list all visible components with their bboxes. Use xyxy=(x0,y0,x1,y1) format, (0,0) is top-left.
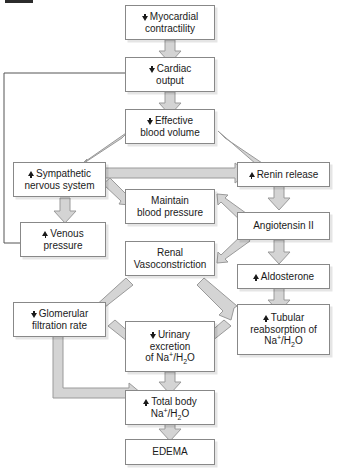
node-myocardial-contractility[interactable]: Myocardial contractility xyxy=(125,5,215,40)
label-line-3: of Na+/H2O xyxy=(145,352,195,363)
decrease-icon xyxy=(31,313,37,318)
label-h: /H xyxy=(173,352,183,363)
node-tubular-reabsorption[interactable]: Tubular reabsorption of Na+/H2O xyxy=(237,304,330,355)
increase-icon xyxy=(143,399,149,404)
label-line-1: Angiotensin II xyxy=(253,220,314,231)
node-glomerular-filtration-rate[interactable]: Glomerular filtration rate xyxy=(13,302,106,337)
decrease-icon xyxy=(149,68,155,73)
label-o: O xyxy=(187,352,195,363)
label-line-2: Na+/H2O xyxy=(151,408,190,419)
label-line-1: Cardiac xyxy=(157,63,191,74)
increase-icon xyxy=(263,315,269,320)
flowchart-canvas: Myocardial contractility Cardiac output … xyxy=(0,0,338,469)
label-line-1: Aldosterone xyxy=(261,271,314,282)
label-line-1: Tubular xyxy=(271,312,305,323)
increase-icon xyxy=(253,274,259,279)
node-cardiac-output-text: Cardiac output xyxy=(147,63,193,86)
node-sympathetic-nervous-system[interactable]: Sympathetic nervous system xyxy=(13,162,106,197)
node-total-body[interactable]: Total body Na+/H2O xyxy=(125,390,215,425)
node-aldosterone-text: Aldosterone xyxy=(251,271,316,283)
node-renal-vasoconstriction-text: Renal Vasoconstriction xyxy=(132,247,209,270)
label-o: O xyxy=(182,408,190,419)
label-line-1: Renal xyxy=(157,247,183,258)
node-glomerular-filtration-rate-text: Glomerular filtration rate xyxy=(29,308,90,331)
label-line-1: Sympathetic xyxy=(36,168,91,179)
arrow-renin-to-angiotensin xyxy=(268,186,290,210)
label-line-1: Renin release xyxy=(257,169,319,180)
arrow-sympathetic-to-renin xyxy=(104,163,248,183)
label-line-2: Vasoconstriction xyxy=(134,259,207,270)
label-line-1: EDEMA xyxy=(152,446,188,457)
arrow-angiotensin-to-aldosterone xyxy=(268,240,290,264)
label-h: /H xyxy=(281,335,291,346)
label-na: Na xyxy=(151,408,164,419)
label-line-2: nervous system xyxy=(24,180,94,191)
node-effective-blood-volume[interactable]: Effective blood volume xyxy=(125,109,215,144)
label-o: O xyxy=(295,335,303,346)
node-maintain-blood-pressure[interactable]: Maintain blood pressure xyxy=(125,189,215,224)
node-angiotensin-ii[interactable]: Angiotensin II xyxy=(237,212,330,240)
arrow-sympathetic-to-venous-pressure xyxy=(54,198,76,223)
node-venous-pressure[interactable]: Venous pressure xyxy=(20,222,106,257)
label-line-1: Effective xyxy=(155,115,193,126)
increase-icon xyxy=(28,171,34,176)
node-maintain-blood-pressure-text: Maintain blood pressure xyxy=(135,195,205,218)
label-na: of Na xyxy=(145,352,169,363)
crop-artifact-bar xyxy=(5,0,33,3)
label-line-1: Urinary xyxy=(158,329,190,340)
node-effective-blood-volume-text: Effective blood volume xyxy=(138,115,201,138)
label-line-1: Myocardial xyxy=(150,11,198,22)
node-edema[interactable]: EDEMA xyxy=(125,439,215,465)
decrease-icon xyxy=(142,16,148,21)
node-venous-pressure-text: Venous pressure xyxy=(40,228,85,251)
decrease-icon xyxy=(147,120,153,125)
node-sympathetic-nervous-system-text: Sympathetic nervous system xyxy=(22,168,96,191)
decrease-icon xyxy=(150,334,156,339)
label-line-2: blood volume xyxy=(140,127,199,138)
node-myocardial-contractility-text: Myocardial contractility xyxy=(140,11,200,34)
label-na: Na xyxy=(264,335,277,346)
label-line-2: pressure xyxy=(44,240,83,251)
increase-icon xyxy=(42,231,48,236)
node-renin-release[interactable]: Renin release xyxy=(237,162,330,187)
node-total-body-text: Total body Na+/H2O xyxy=(141,396,199,419)
node-urinary-excretion[interactable]: Urinary excretion of Na+/H2O xyxy=(125,321,215,372)
label-line-1: Venous xyxy=(50,228,83,239)
node-renal-vasoconstriction[interactable]: Renal Vasoconstriction xyxy=(125,241,215,276)
node-urinary-excretion-text: Urinary excretion of Na+/H2O xyxy=(143,329,197,364)
label-line-1: Maintain xyxy=(151,195,189,206)
node-tubular-reabsorption-text: Tubular reabsorption of Na+/H2O xyxy=(248,312,319,347)
label-line-2: contractility xyxy=(145,23,195,34)
node-renin-release-text: Renin release xyxy=(247,169,321,181)
increase-icon xyxy=(249,172,255,177)
label-line-1: Glomerular xyxy=(39,308,88,319)
label-line-2: reabsorption of xyxy=(250,324,317,335)
label-line-2: blood pressure xyxy=(137,207,203,218)
label-h: /H xyxy=(168,408,178,419)
label-line-3: Na+/H2O xyxy=(264,335,303,346)
node-angiotensin-ii-text: Angiotensin II xyxy=(251,220,316,232)
arrow-renal-vaso-to-tubular xyxy=(197,278,237,320)
label-line-2: filtration rate xyxy=(32,320,87,331)
label-line-2: output xyxy=(156,75,184,86)
label-line-1: Total body xyxy=(151,396,197,407)
node-edema-text: EDEMA xyxy=(150,446,190,458)
node-aldosterone[interactable]: Aldosterone xyxy=(237,264,330,289)
node-cardiac-output[interactable]: Cardiac output xyxy=(125,57,215,92)
